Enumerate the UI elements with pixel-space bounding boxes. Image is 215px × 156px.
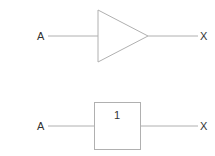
output-label-x: X bbox=[200, 120, 208, 132]
input-label-a: A bbox=[37, 120, 45, 132]
box-label: 1 bbox=[114, 109, 120, 121]
logic-diagram: A X A 1 X bbox=[0, 0, 215, 156]
buffer-triangle bbox=[98, 10, 148, 62]
output-label-x: X bbox=[200, 30, 208, 42]
buffer-triangle-symbol: A X bbox=[37, 10, 208, 62]
input-label-a: A bbox=[37, 30, 45, 42]
buffer-box-symbol: A 1 X bbox=[37, 103, 208, 150]
